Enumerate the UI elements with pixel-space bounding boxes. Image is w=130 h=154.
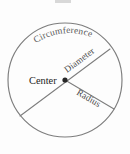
diagram-canvas: Circumference Center Diameter Radius — [0, 0, 130, 154]
diameter-label: Diameter — [62, 46, 96, 75]
center-label: Center — [29, 75, 57, 86]
radius-label: Radius — [75, 87, 103, 109]
center-point-dot — [62, 77, 67, 82]
circle-diagram: Circumference Center Diameter Radius — [0, 0, 130, 154]
